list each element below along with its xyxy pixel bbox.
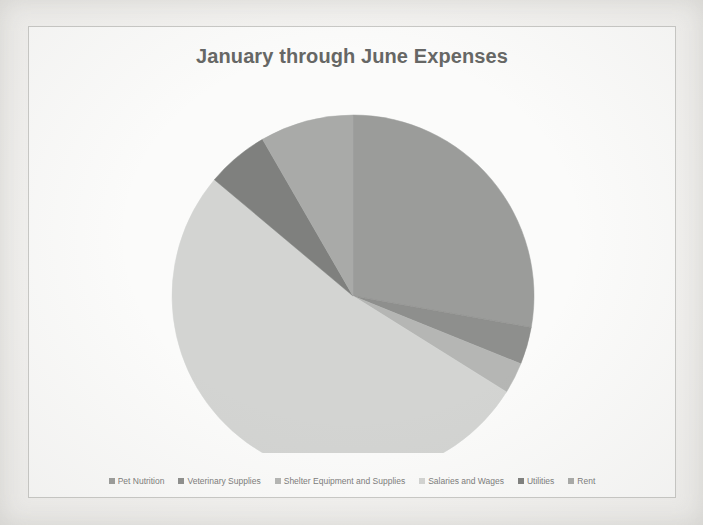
legend-swatch-icon: [178, 478, 184, 484]
chart-container[interactable]: January through June Expenses Pet Nutrit…: [28, 26, 676, 498]
pie-plot-area[interactable]: [29, 63, 677, 453]
chart-legend: Pet NutritionVeterinary SuppliesShelter …: [29, 477, 675, 486]
legend-swatch-icon: [419, 478, 425, 484]
legend-item-label: Salaries and Wages: [428, 477, 504, 486]
page-background: January through June Expenses Pet Nutrit…: [0, 0, 703, 525]
legend-item[interactable]: Rent: [568, 477, 595, 486]
legend-swatch-icon: [109, 478, 115, 484]
pie-slice-group: [172, 115, 534, 453]
legend-swatch-icon: [568, 478, 574, 484]
legend-swatch-icon: [275, 478, 281, 484]
legend-item-label: Veterinary Supplies: [187, 477, 260, 486]
legend-item[interactable]: Salaries and Wages: [419, 477, 504, 486]
legend-item-label: Utilities: [527, 477, 554, 486]
legend-item[interactable]: Veterinary Supplies: [178, 477, 260, 486]
legend-item-label: Shelter Equipment and Supplies: [284, 477, 405, 486]
legend-swatch-icon: [518, 478, 524, 484]
legend-item-label: Rent: [577, 477, 595, 486]
legend-item[interactable]: Shelter Equipment and Supplies: [275, 477, 405, 486]
pie-slice[interactable]: [353, 115, 534, 327]
legend-item-label: Pet Nutrition: [118, 477, 165, 486]
pie-chart-svg[interactable]: [29, 63, 677, 453]
legend-item[interactable]: Utilities: [518, 477, 554, 486]
legend-item[interactable]: Pet Nutrition: [109, 477, 165, 486]
